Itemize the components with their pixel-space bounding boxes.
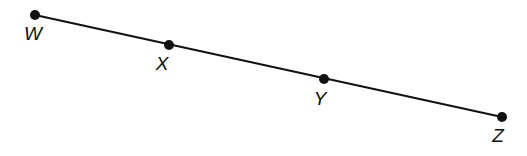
point-z xyxy=(497,112,507,122)
point-y xyxy=(319,74,329,84)
point-label-x: X xyxy=(155,53,170,74)
diagram-canvas: WXYZ xyxy=(0,0,527,156)
diagram-svg: WXYZ xyxy=(0,0,527,156)
point-label-z: Z xyxy=(491,125,505,146)
line-segment xyxy=(35,15,502,117)
point-label-w: W xyxy=(24,23,44,44)
point-label-y: Y xyxy=(314,88,328,109)
point-w xyxy=(30,10,40,20)
point-x xyxy=(164,40,174,50)
